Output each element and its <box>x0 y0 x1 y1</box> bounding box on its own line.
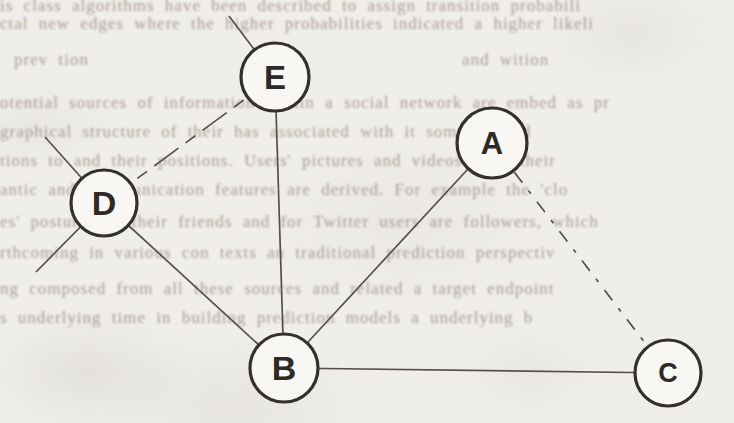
node-label-B: B <box>272 349 297 387</box>
node-label-D: D <box>92 184 117 222</box>
node-label-C: C <box>658 358 678 388</box>
edge-A-C-dashed <box>492 143 668 373</box>
scanned-page: is class algorithms have been described … <box>0 0 734 423</box>
edge-E-B-solid <box>275 77 284 368</box>
graph-figure: EADBC <box>0 0 734 423</box>
nodes-group: EADBC <box>71 43 701 406</box>
edge-B-C-solid <box>284 368 668 373</box>
edge-D-B-solid <box>104 203 284 368</box>
node-label-A: A <box>481 126 503 161</box>
edge-A-B-solid <box>284 143 492 368</box>
node-label-E: E <box>264 59 286 96</box>
